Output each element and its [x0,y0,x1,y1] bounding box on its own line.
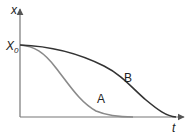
x0-tick-label: X0 [6,40,18,55]
x0-subscript: 0 [14,46,18,55]
curve-a-label: A [97,93,105,105]
x0-main: X [6,39,14,53]
x-axis-label: t [172,122,175,134]
chart-canvas [0,0,193,137]
curve-b-label: B [124,72,132,84]
curve-b [20,45,176,117]
curve-a [20,45,133,117]
y-axis-label: x [11,4,17,16]
